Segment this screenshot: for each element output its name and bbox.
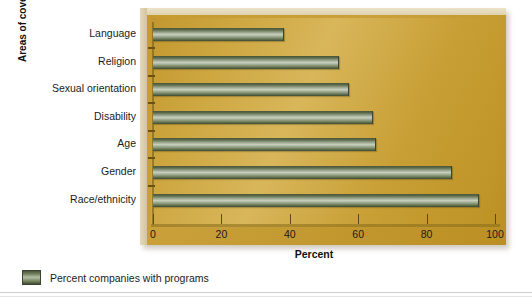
bar-age bbox=[153, 138, 376, 151]
chart-figure: Areas of coverage LanguageReligionSexual… bbox=[0, 0, 532, 301]
bar-religion bbox=[153, 56, 339, 69]
x-axis-tick-labels: 020406080100 bbox=[140, 228, 506, 246]
bar-disability bbox=[153, 111, 373, 124]
y-tick-mark bbox=[148, 75, 155, 77]
y-axis-label-disability: Disability bbox=[8, 110, 136, 122]
bottom-divider-secondary bbox=[0, 296, 532, 297]
x-tick-label-20: 20 bbox=[216, 228, 228, 240]
y-axis-label-language: Language bbox=[8, 27, 136, 39]
x-tick-mark bbox=[290, 214, 291, 224]
x-tick-mark bbox=[427, 214, 428, 224]
x-axis-title: Percent bbox=[295, 248, 334, 260]
y-tick-mark bbox=[148, 185, 155, 187]
y-tick-mark bbox=[148, 130, 155, 132]
x-tick-label-100: 100 bbox=[486, 228, 504, 240]
bar-sexual-orientation bbox=[153, 83, 349, 96]
y-axis-label-sexual-orientation: Sexual orientation bbox=[8, 82, 136, 94]
x-tick-mark bbox=[358, 214, 359, 224]
legend-label: Percent companies with programs bbox=[50, 272, 209, 284]
x-tick-label-40: 40 bbox=[284, 228, 296, 240]
y-axis-label-religion: Religion bbox=[8, 55, 136, 67]
bottom-divider bbox=[0, 292, 532, 293]
x-axis-title-wrap: Percent bbox=[0, 248, 532, 260]
y-axis-labels: LanguageReligionSexual orientationDisabi… bbox=[0, 8, 136, 245]
x-tick-label-0: 0 bbox=[150, 228, 156, 240]
plot-axes bbox=[140, 8, 506, 245]
x-tick-label-60: 60 bbox=[352, 228, 364, 240]
y-axis-label-gender: Gender bbox=[8, 165, 136, 177]
bar-gender bbox=[153, 166, 452, 179]
x-tick-mark bbox=[153, 214, 154, 224]
bar-language bbox=[153, 28, 284, 41]
bar-race-ethnicity bbox=[153, 194, 479, 207]
legend-swatch-icon bbox=[22, 270, 41, 285]
y-tick-mark bbox=[148, 47, 155, 49]
x-axis-rail bbox=[151, 224, 500, 227]
y-axis-label-age: Age bbox=[8, 137, 136, 149]
y-tick-mark bbox=[148, 157, 155, 159]
x-tick-mark bbox=[221, 214, 222, 224]
y-axis-label-race-ethnicity: Race/ethnicity bbox=[8, 193, 136, 205]
x-tick-label-80: 80 bbox=[421, 228, 433, 240]
y-tick-mark bbox=[148, 102, 155, 104]
chart-legend: Percent companies with programs bbox=[22, 270, 209, 285]
x-tick-mark bbox=[495, 214, 496, 224]
